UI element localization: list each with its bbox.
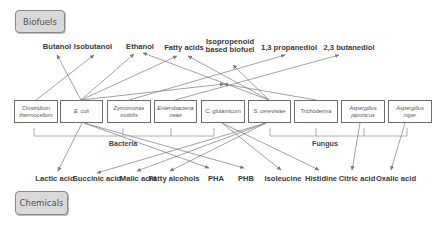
arrow-from-aniger — [391, 123, 405, 170]
biofuel-butanediol: 2,3 butanediol — [323, 44, 374, 52]
organism-box-zymomonas: Zymomonas mobilis — [107, 100, 151, 123]
arrow-from-ajaponicus — [352, 123, 360, 170]
biofuel-fatty_acids: Fatty acids — [164, 44, 204, 52]
organism-box-cglutamicum: C. glutamicum — [201, 100, 245, 123]
chemical-isoleucine: Isoleucine — [264, 175, 301, 183]
group-label-bacteria: Bacteria — [109, 139, 137, 148]
organism-label: Enterobacteria ceae — [157, 105, 193, 118]
chemical-oxalic: Oxalic acid — [376, 175, 416, 183]
organism-label: Clostridium thermocellum — [19, 105, 53, 118]
arrow-from-scerevisiae — [143, 53, 269, 100]
biofuel-ethanol: Ethanol — [126, 43, 154, 51]
organism-box-enterobacteriaceae: Enterobacteria ceae — [154, 100, 197, 123]
chemical-histidine: Histidine — [305, 175, 337, 183]
organism-label: Aspergillus japonicus — [349, 105, 376, 118]
biofuel-isobutanol: Isobutanol — [74, 43, 112, 51]
organism-box-trichoderma: Trichoderma — [294, 100, 338, 123]
organism-box-aniger: Aspergillus niger — [388, 100, 432, 123]
organism-label: S. cerevisiae — [253, 108, 285, 115]
organism-box-ajaponicus: Aspergillus japonicus — [341, 100, 385, 123]
chemical-lactic: Lactic acid — [35, 175, 74, 183]
arrow-from-scerevisiae — [137, 123, 266, 171]
arrow-from-ecoli — [57, 55, 81, 100]
chemical-pha: PHA — [208, 175, 224, 183]
arrow-from-trichoderma — [224, 84, 316, 100]
chemical-fatty_alcohols: Fatty alcohols — [148, 175, 199, 183]
biofuel-propanediol: 1,3 propanediol — [261, 44, 317, 52]
organism-label: E. coli — [74, 108, 89, 115]
group-label-fungus: Fungus — [312, 139, 338, 148]
organism-label: Trichoderma — [300, 108, 331, 115]
organism-label: Aspergillus niger — [396, 105, 423, 118]
arrow-from-cglutamicum — [222, 123, 319, 170]
biofuel-isopropenoid: Isopropenoid based biofuel — [206, 38, 255, 54]
organism-box-scerevisiae: S. cerevisiae — [248, 100, 291, 123]
chemical-succinic: Succinic acid — [73, 175, 122, 183]
organism-box-ecoli: E. coli — [60, 100, 103, 123]
arrow-from-ecoli — [81, 84, 224, 100]
arrow-from-ecoli — [58, 123, 82, 171]
arrow-from-ecoli — [81, 56, 177, 100]
organism-label: Zymomonas mobilis — [114, 105, 145, 118]
arrow-from-clostridium — [36, 55, 94, 100]
biofuel-butanol: Butanol — [43, 43, 71, 51]
organism-box-clostridium: Clostridium thermocellum — [14, 100, 58, 123]
chemical-phb: PHB — [238, 175, 254, 183]
arrow-from-ecoli — [81, 54, 134, 100]
organism-label: C. glutamicum — [205, 108, 241, 115]
chemical-citric: Citric acid — [339, 175, 376, 183]
